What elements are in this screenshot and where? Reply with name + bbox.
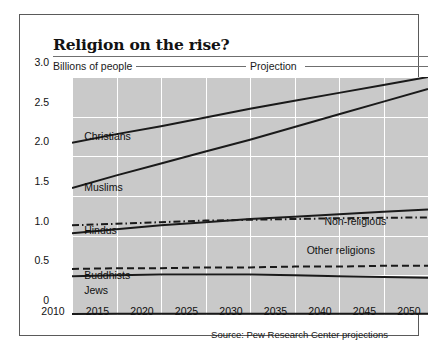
y-tick-label: 1.0	[5, 215, 49, 227]
y-tick-label: 1.5	[5, 175, 49, 187]
x-tick-label: 2045	[343, 305, 387, 317]
x-tick-label: 2010	[31, 305, 75, 317]
x-tick-label: 2015	[76, 305, 120, 317]
series-label-muslims: Muslims	[84, 181, 123, 193]
x-tick-label: 2025	[165, 305, 209, 317]
y-axis-title: Billions of people	[53, 60, 132, 72]
x-tick-label: 2020	[120, 305, 164, 317]
series-label-buddhists: Buddhists	[84, 269, 130, 281]
x-tick-label: 2030	[209, 305, 253, 317]
y-tick-label: 2.5	[5, 96, 49, 108]
projection-label: Projection	[250, 60, 297, 72]
x-tick-label: 2035	[254, 305, 298, 317]
chart-frame: Religion on the rise? Billions of people…	[19, 14, 419, 336]
series-label-jews: Jews	[84, 284, 108, 296]
series-label-other-religions: Other religions	[307, 244, 375, 256]
x-tick-label: 2050	[387, 305, 431, 317]
y-tick-label: 3.0	[5, 56, 49, 68]
series-label-christians: Christians	[84, 130, 131, 142]
projection-rule-left	[136, 66, 246, 67]
series-label-non-religious: Non-religious	[324, 215, 386, 227]
series-label-hindus: Hindus	[84, 224, 117, 236]
projection-rule-right	[305, 66, 428, 67]
source-note: Source: Pew Research Center projections	[211, 329, 388, 340]
chart-figure: Religion on the rise? Billions of people…	[0, 0, 437, 350]
x-tick-label: 2040	[298, 305, 342, 317]
page-title: Religion on the rise?	[53, 35, 229, 54]
title-divider	[53, 56, 428, 57]
y-tick-label: 2.0	[5, 135, 49, 147]
y-tick-label: 0.5	[5, 254, 49, 266]
